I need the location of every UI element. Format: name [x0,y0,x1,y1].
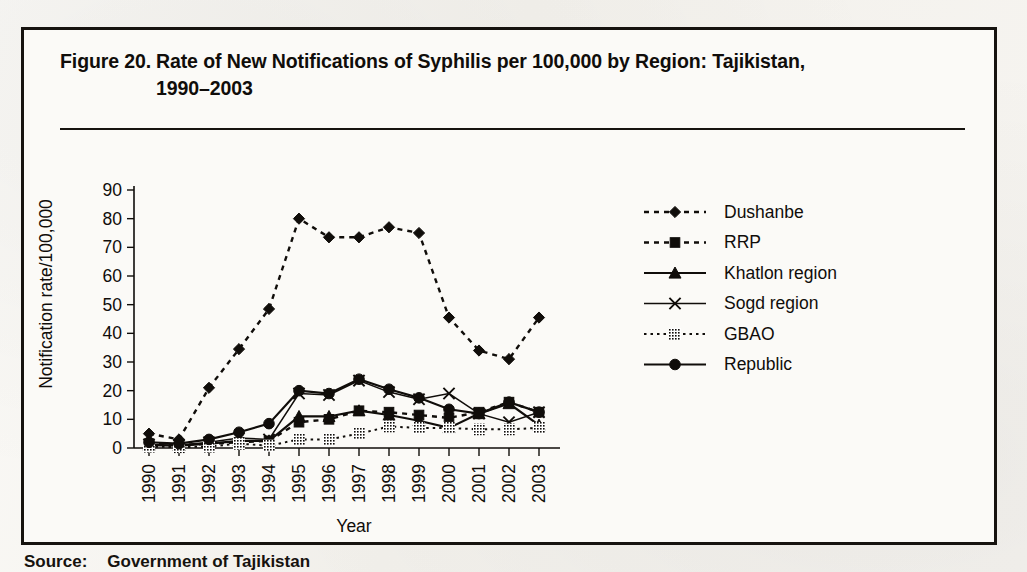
marker-hatched-box [443,422,455,434]
marker-diamond [353,232,364,243]
x-axis-title: Year [336,516,372,536]
title-divider [60,128,965,130]
marker-hatched-box [233,438,245,450]
legend-label: GBAO [724,324,775,344]
marker-diamond [203,382,214,393]
legend-label: RRP [724,232,761,252]
marker-hatched-box [503,423,515,435]
marker-hatched-box [323,433,335,445]
marker-circle [144,437,155,448]
marker-hatched-box [353,428,365,440]
legend-label: Khatlon region [724,263,837,283]
marker-circle [504,397,515,408]
y-tick-label: 40 [103,323,123,343]
marker-diamond [323,232,334,243]
y-tick-label: 70 [103,237,123,257]
data-series-group [143,213,545,453]
marker-hatched-box [473,423,485,435]
x-tick-label: 1999 [409,464,429,503]
marker-circle [444,404,455,415]
y-tick-label: 50 [103,295,123,315]
y-tick-label: 90 [103,180,123,200]
y-tick-label: 30 [103,352,123,372]
scanned-page: Figure 20.Rate of New Notifications of S… [0,0,1027,572]
marker-hatched-box [669,328,681,340]
x-tick-label: 2002 [499,464,519,503]
y-tick-label: 10 [103,409,123,429]
x-tick-label: 2000 [439,464,459,503]
marker-circle [204,434,215,445]
marker-hatched-box [533,422,545,434]
x-tick-label: 1998 [379,464,399,503]
source-text: Government of Tajikistan [107,552,310,571]
x-tick-label: 1992 [199,464,219,503]
source-label: Source: [24,552,87,571]
x-tick-label: 1991 [169,464,189,503]
marker-circle [670,359,681,370]
y-tick-label: 20 [103,381,123,401]
y-tick-label: 0 [112,438,122,458]
marker-hatched-box [263,440,275,452]
legend-item-republic: Republic [644,354,792,374]
x-tick-label: 2001 [469,464,489,503]
marker-circle [174,438,185,449]
x-tick-label: 1997 [349,464,369,503]
figure-title: Figure 20.Rate of New Notifications of S… [60,48,950,102]
marker-circle [384,384,395,395]
marker-circle [414,393,425,404]
marker-hatched-box [293,433,305,445]
legend-item-dushanbe: Dushanbe [644,202,804,222]
marker-diamond [443,312,454,323]
marker-diamond [669,206,680,217]
marker-circle [264,418,275,429]
legend-item-khatlon-region: Khatlon region [644,263,837,283]
marker-circle [534,407,545,418]
marker-hatched-box [413,422,425,434]
y-axis-title: Notification rate/100,000 [36,199,56,389]
x-tick-label: 1995 [289,464,309,503]
figure-source-caption: Source:Government of Tajikistan [24,552,310,572]
marker-circle [354,374,365,385]
legend-label: Sogd region [724,293,818,313]
y-tick-label: 60 [103,266,123,286]
legend-label: Republic [724,354,792,374]
figure-frame: Figure 20.Rate of New Notifications of S… [21,27,997,545]
legend-item-gbao: GBAO [644,324,775,344]
marker-diamond [383,222,394,233]
series-republic [144,374,545,449]
figure-title-line1: Rate of New Notifications of Syphilis pe… [156,50,805,72]
figure-title-line2: 1990–2003 [156,75,950,102]
legend-item-sogd-region: Sogd region [644,293,818,313]
marker-hatched-box [383,421,395,433]
x-tick-label: 2003 [529,464,549,503]
marker-diamond [413,227,424,238]
legend-label: Dushanbe [724,202,804,222]
marker-circle [234,427,245,438]
figure-number: Figure 20. [60,48,156,75]
legend-item-rrp: RRP [644,232,761,252]
y-tick-label: 80 [103,209,123,229]
series-path [149,219,539,440]
y-axis-ticks: 0102030405060708090 [103,180,134,458]
marker-circle [294,385,305,396]
chart-canvas: 0102030405060708090 19901991199219931994… [24,134,997,542]
marker-circle [324,388,335,399]
x-tick-label: 1990 [139,464,159,503]
x-axis-ticks: 1990199119921993199419951996199719981999… [139,448,549,503]
marker-square [670,238,680,248]
marker-circle [474,408,485,419]
line-chart: 0102030405060708090 19901991199219931994… [24,134,997,542]
x-tick-label: 1996 [319,464,339,503]
x-tick-label: 1993 [229,464,249,503]
marker-diamond [293,213,304,224]
chart-legend: DushanbeRRPKhatlon regionSogd regionGBAO… [644,202,837,375]
x-tick-label: 1994 [259,464,279,503]
